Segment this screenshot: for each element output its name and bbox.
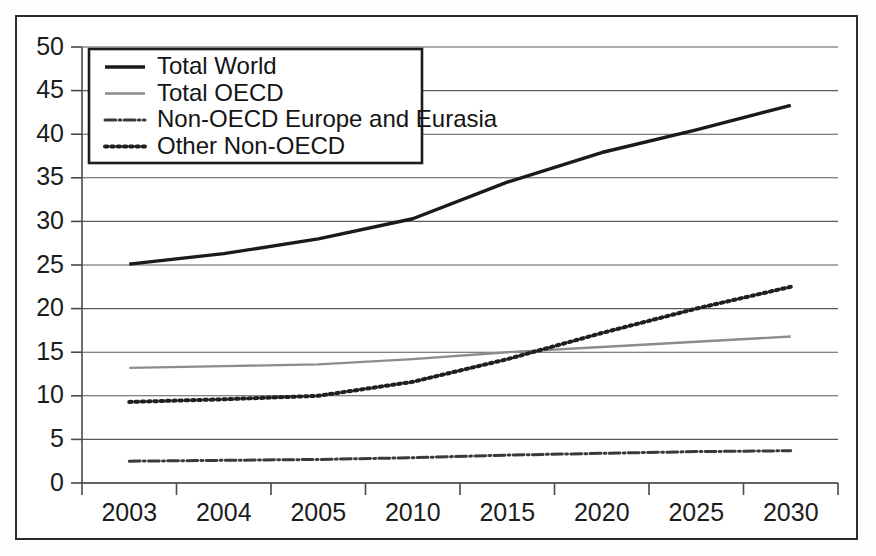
x-tick-label: 2025	[668, 498, 724, 526]
x-tick-label: 2020	[574, 498, 630, 526]
y-tick-label: 15	[36, 337, 64, 365]
x-tick-label: 2010	[385, 498, 441, 526]
y-tick-label: 10	[36, 380, 64, 408]
x-axis-ticks	[82, 483, 838, 495]
legend-label-0: Total World	[157, 52, 277, 79]
chart-legend: Total WorldTotal OECDNon-OECD Europe and…	[89, 49, 498, 163]
legend-label-2: Non-OECD Europe and Eurasia	[157, 105, 498, 132]
x-tick-label: 2030	[763, 498, 819, 526]
x-tick-label: 2003	[101, 498, 157, 526]
x-tick-label: 2015	[479, 498, 535, 526]
y-tick-label: 20	[36, 293, 64, 321]
x-tick-label: 2005	[290, 498, 346, 526]
x-axis-tick-labels: 20032004200520102015202020252030	[101, 498, 818, 526]
y-axis-tick-labels: 05101520253035404550	[36, 32, 64, 496]
legend-label-1: Total OECD	[157, 79, 284, 106]
y-tick-label: 40	[36, 119, 64, 147]
y-tick-label: 30	[36, 206, 64, 234]
page-root: 05101520253035404550 2003200420052010201…	[0, 0, 876, 556]
y-tick-label: 45	[36, 75, 64, 103]
y-tick-label: 35	[36, 162, 64, 190]
series-line-2	[129, 451, 791, 461]
series-line-3	[129, 287, 791, 402]
y-tick-label: 25	[36, 250, 64, 278]
y-tick-label: 5	[50, 424, 64, 452]
y-tick-label: 0	[50, 468, 64, 496]
x-tick-label: 2004	[196, 498, 252, 526]
y-axis-ticks	[71, 47, 82, 483]
legend-label-3: Other Non-OECD	[157, 132, 345, 159]
line-chart: 05101520253035404550 2003200420052010201…	[0, 0, 876, 556]
y-tick-label: 50	[36, 32, 64, 60]
